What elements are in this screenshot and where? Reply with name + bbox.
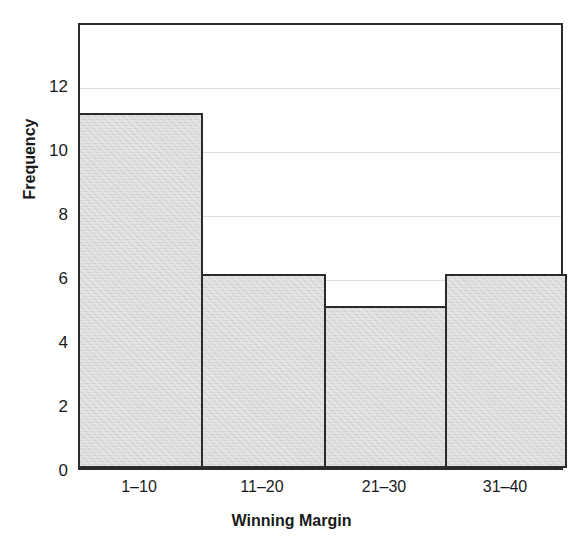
x-tick-label-21-30: 21–30 bbox=[362, 479, 407, 495]
y-tick-label-0: 0 bbox=[8, 462, 68, 479]
x-tick-label-11-20: 11–20 bbox=[240, 479, 283, 495]
histogram-bar-1-10 bbox=[78, 113, 203, 468]
gridline-12 bbox=[80, 88, 561, 89]
histogram-bar-31-40 bbox=[445, 274, 567, 468]
y-tick-label-4: 4 bbox=[8, 334, 68, 351]
x-tick-label-1-10: 1–10 bbox=[121, 479, 157, 495]
y-tick-label-6: 6 bbox=[8, 270, 68, 287]
x-axis-title: Winning Margin bbox=[0, 512, 583, 530]
y-tick-label-10: 10 bbox=[8, 142, 68, 159]
y-tick-label-12: 12 bbox=[8, 78, 68, 95]
histogram-figure: Frequency 0 2 4 6 8 10 12 1–10 11–20 21–… bbox=[0, 0, 583, 549]
y-tick-label-2: 2 bbox=[8, 398, 68, 415]
x-tick-label-31-40: 31–40 bbox=[483, 479, 528, 495]
y-tick-label-8: 8 bbox=[8, 206, 68, 223]
histogram-bar-21-30 bbox=[324, 306, 447, 468]
histogram-bar-11-20 bbox=[201, 274, 326, 468]
plot-area bbox=[78, 23, 563, 470]
